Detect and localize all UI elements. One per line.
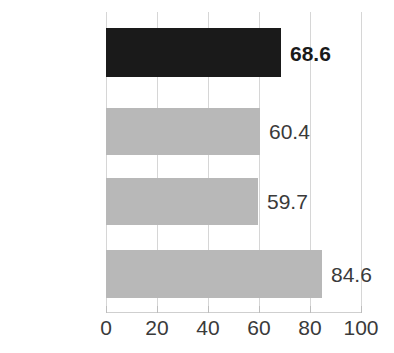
x-tick-label-20: 20 [145, 316, 168, 340]
x-tick-label-60: 60 [247, 316, 270, 340]
x-tick-60 [259, 306, 260, 313]
x-axis-line [106, 312, 362, 313]
x-tick-0 [106, 306, 107, 313]
x-tick-40 [208, 306, 209, 313]
bar-regional-average [106, 178, 258, 225]
bar-country [106, 28, 281, 77]
x-tick-label-100: 100 [343, 316, 378, 340]
x-tick-100 [361, 306, 362, 313]
x-tick-label-40: 40 [196, 316, 219, 340]
value-label-country: 68.6 [290, 43, 331, 64]
x-tick-label-80: 80 [298, 316, 321, 340]
x-tick-label-0: 0 [100, 316, 112, 340]
chart-title [0, 0, 394, 2]
x-tick-80 [310, 306, 311, 313]
bar-world-average [106, 108, 260, 155]
x-tick-20 [157, 306, 158, 313]
bar-chart: Country World Average Regional Average F… [0, 0, 394, 353]
bar-free-economies [106, 250, 322, 298]
value-label-free-economies: 84.6 [331, 264, 372, 285]
value-label-regional-average: 59.7 [267, 191, 308, 212]
value-label-world-average: 60.4 [269, 121, 310, 142]
